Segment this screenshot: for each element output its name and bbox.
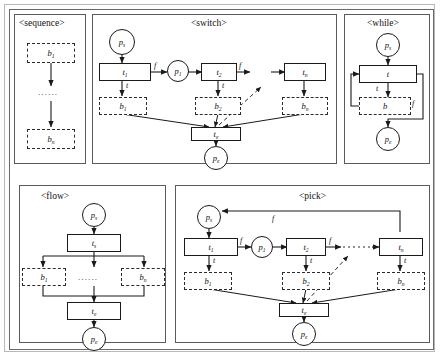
switch-place-mid: p1 — [167, 60, 189, 82]
switch-trans-n-sub: n — [305, 72, 308, 78]
pick-edge-label-feedback: f — [272, 214, 274, 223]
pick-edge-label-t2: t — [310, 256, 312, 265]
while-trans-label: t — [387, 70, 389, 79]
pick-block-1-sub: 1 — [209, 281, 212, 287]
switch-trans-1: t1 — [99, 63, 151, 81]
while-place-end-sub: e — [389, 139, 391, 145]
switch-trans-2-sub: 2 — [219, 72, 222, 78]
switch-block-2: b2 — [195, 97, 241, 115]
pick-trans-end-sub: e — [304, 310, 306, 316]
while-trans: t — [359, 65, 417, 83]
figure-root: <sequence> b1 ...... bn <switch> — [0, 0, 443, 359]
pick-place-end: pe — [292, 322, 316, 346]
flow-block-n: bn — [121, 268, 165, 286]
panel-sequence: <sequence> b1 ...... bn — [14, 14, 86, 164]
panel-switch: <switch> ps — [92, 14, 337, 164]
flow-place-start: ps — [82, 203, 106, 227]
pick-trans-1-sub: 1 — [211, 247, 214, 253]
while-place-start: ps — [376, 33, 400, 57]
switch-place-end-sub: e — [217, 158, 219, 164]
switch-trans-2: t2 — [201, 63, 237, 81]
flow-block-1-sub: 1 — [45, 277, 48, 283]
flow-place-end-sub: e — [95, 339, 97, 345]
while-place-end: pe — [376, 127, 400, 151]
pick-edge-label-tn: t — [404, 256, 406, 265]
pick-trans-2: t2 — [286, 238, 326, 256]
sequence-block-first: b1 — [27, 43, 75, 63]
switch-block-1-sub: 1 — [124, 106, 127, 112]
panel-flow: <flow> ps ts b1 ...... bn te pe — [19, 185, 166, 343]
while-edge-label-f: f — [412, 99, 414, 108]
flow-block-n-sub: n — [144, 277, 147, 283]
sequence-block-last: bn — [27, 129, 75, 149]
switch-block-2-sub: 2 — [219, 106, 222, 112]
panel-pick: <pick> — [175, 185, 430, 343]
flow-ellipsis: ...... — [78, 272, 98, 282]
switch-place-start: ps — [109, 29, 135, 55]
switch-place-end: pe — [204, 146, 228, 170]
switch-block-n-sub: n — [306, 106, 309, 112]
flow-trans-start: ts — [67, 234, 121, 252]
pick-trans-2-sub: 2 — [306, 247, 309, 253]
while-block: b — [359, 97, 411, 115]
pick-place-mid-sub: 1 — [263, 247, 266, 253]
switch-place-start-sub: s — [123, 42, 125, 48]
switch-block-n: bn — [282, 97, 328, 115]
pick-place-mid: p1 — [251, 236, 273, 258]
while-edge-label-t: t — [376, 84, 378, 93]
pick-place-start: ps — [197, 205, 221, 229]
switch-block-1: b1 — [99, 97, 147, 115]
pick-edge-label-t1: t — [213, 256, 215, 265]
pick-trans-end: te — [279, 303, 329, 317]
switch-trans-n: tn — [284, 63, 326, 81]
flow-block-1: b1 — [22, 268, 66, 286]
switch-edge-label-t1: t — [126, 81, 128, 90]
flow-place-end: pe — [82, 327, 106, 351]
switch-trans-1-sub: 1 — [125, 72, 128, 78]
panel-while: <while> ps t b pe t f — [344, 14, 430, 164]
flow-place-start-sub: s — [95, 215, 97, 221]
while-place-start-sub: s — [389, 45, 391, 51]
pick-block-2-sub: 2 — [307, 281, 310, 287]
flow-trans-end: te — [67, 302, 121, 320]
flow-trans-end-sub: e — [94, 311, 96, 317]
sequence-block-last-sub: n — [52, 139, 55, 145]
while-block-label: b — [383, 102, 387, 111]
switch-edge-label-f1: f — [154, 61, 156, 70]
sequence-block-first-sub: 1 — [52, 53, 55, 59]
switch-place-mid-sub: 1 — [179, 71, 182, 77]
pick-block-n: bn — [377, 272, 425, 290]
pick-block-1: b1 — [184, 272, 232, 290]
sequence-ellipsis: ...... — [38, 87, 58, 97]
switch-trans-end-sub: e — [216, 134, 218, 140]
pick-place-start-sub: s — [210, 217, 212, 223]
switch-edge-label-f2: f — [239, 61, 241, 70]
pick-place-end-sub: e — [305, 334, 307, 340]
switch-trans-end: te — [191, 127, 241, 141]
pick-block-n-sub: n — [402, 281, 405, 287]
pick-edge-label-f1: f — [240, 236, 242, 245]
flow-trans-start-sub: s — [94, 243, 96, 249]
pick-block-2: b2 — [282, 272, 330, 290]
pick-trans-1: t1 — [184, 238, 238, 256]
switch-edge-label-t2: t — [222, 81, 224, 90]
pick-trans-n: tn — [379, 238, 423, 256]
pick-edge-label-f2: f — [329, 236, 331, 245]
pick-trans-n-sub: n — [401, 247, 404, 253]
